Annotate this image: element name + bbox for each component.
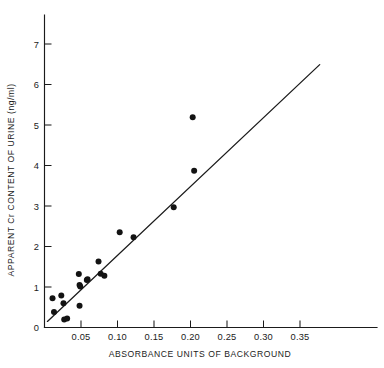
x-tick-label: 0.20 [181, 332, 200, 342]
scatter-plot: 0 1 2 3 4 5 6 7 0.05 0.10 0.15 0.20 0.25… [0, 0, 384, 368]
data-point [76, 271, 82, 277]
x-tick-label: 0.35 [291, 332, 310, 342]
data-point [58, 293, 64, 299]
y-tick-label: 0 [34, 323, 39, 333]
y-axis-tick-labels: 0 1 2 3 4 5 6 7 [34, 40, 39, 334]
data-point [117, 229, 123, 235]
data-point [190, 114, 196, 120]
x-tick-label: 0.10 [108, 332, 127, 342]
y-axis-ticks [45, 44, 52, 328]
data-point [50, 295, 56, 301]
y-tick-label: 1 [34, 283, 39, 293]
x-tick-label: 0.15 [145, 332, 164, 342]
data-points-group [50, 114, 198, 322]
data-point [131, 234, 137, 240]
x-tick-label: 0.25 [218, 332, 237, 342]
x-tick-label: 0.30 [254, 332, 273, 342]
x-axis-ticks [81, 321, 300, 328]
data-point [64, 316, 70, 322]
data-point [85, 276, 91, 282]
y-axis-title: APPARENT Cr CONTENT OF URINE (ng/ml) [6, 83, 16, 276]
data-point [77, 284, 83, 290]
x-axis-title: ABSORBANCE UNITS OF BACKGROUND [109, 349, 292, 359]
y-tick-label: 4 [34, 161, 39, 171]
x-axis-tick-labels: 0.05 0.10 0.15 0.20 0.25 0.30 0.35 [72, 332, 310, 342]
y-tick-label: 3 [34, 202, 39, 212]
y-tick-label: 5 [34, 121, 39, 131]
data-point [77, 303, 83, 309]
data-point [51, 309, 57, 315]
regression-line [47, 65, 319, 322]
y-tick-label: 2 [34, 242, 39, 252]
y-tick-label: 6 [34, 80, 39, 90]
data-point [191, 168, 197, 174]
x-tick-label: 0.05 [72, 332, 91, 342]
data-point [60, 300, 66, 306]
y-tick-label: 7 [34, 40, 39, 50]
chart-figure: 0 1 2 3 4 5 6 7 0.05 0.10 0.15 0.20 0.25… [0, 0, 384, 368]
data-point [101, 273, 107, 279]
data-point [171, 204, 177, 210]
data-point [96, 258, 102, 264]
